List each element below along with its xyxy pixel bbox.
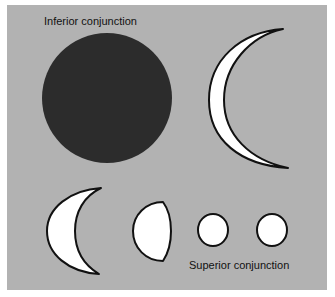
superior-conjunction-label: Superior conjunction — [189, 259, 289, 272]
venus-phases-diagram — [0, 0, 335, 297]
gibbous-phase — [133, 202, 171, 261]
crescent-phase — [47, 188, 101, 274]
nearly-full-phase — [198, 214, 228, 246]
superior-conjunction-disk — [257, 214, 287, 246]
inferior-conjunction-disk — [42, 33, 172, 163]
thin-crescent-phase — [209, 29, 288, 168]
inferior-conjunction-label: Inferior conjunction — [44, 15, 137, 28]
